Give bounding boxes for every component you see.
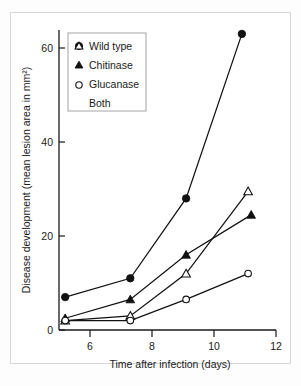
data-point-filled-triangle [182,251,191,259]
x-tick-label: 8 [149,340,155,352]
series-line [65,274,248,321]
series-chitinase [61,187,253,324]
x-axis-ticks: 6 8 10 12 [87,330,282,352]
data-point-filled-circle [238,30,245,37]
legend-marker-open-circle [76,82,82,88]
figure-container: 0 20 40 60 6 8 10 12 Time after infectio… [0,0,301,386]
y-tick-label: 20 [41,230,53,242]
data-point-filled-circle [182,195,189,202]
legend-label: Both [89,97,111,109]
data-point-filled-circle [61,293,68,300]
y-tick-label: 40 [41,136,53,148]
x-axis-title: Time after infection (days) [110,358,231,370]
y-tick-label: 0 [47,324,53,336]
x-tick-label: 6 [87,340,93,352]
x-tick-label: 10 [208,340,220,352]
data-point-filled-triangle [247,211,256,219]
x-tick-label: 12 [270,340,282,352]
line-chart: 0 20 40 60 6 8 10 12 Time after infectio… [0,0,301,386]
legend-label: Chitinase [89,59,133,71]
legend-label: Glucanase [89,78,139,90]
legend-label: Wild type [89,40,132,52]
data-point-open-circle [62,317,69,324]
y-tick-label: 60 [41,42,53,54]
series-line [65,191,248,320]
data-point-open-circle [183,296,190,303]
data-point-open-circle [127,317,134,324]
chart-legend: Wild type Chitinase Glucanase Both [68,33,146,111]
series-line [65,215,251,318]
data-point-filled-circle [127,275,134,282]
series-glucanase [61,211,256,322]
y-axis-ticks: 0 20 40 60 [41,42,65,336]
data-point-open-circle [245,270,252,277]
data-point-open-triangle [244,187,253,195]
y-axis-title: Disease development (mean lesion area in… [20,67,32,293]
